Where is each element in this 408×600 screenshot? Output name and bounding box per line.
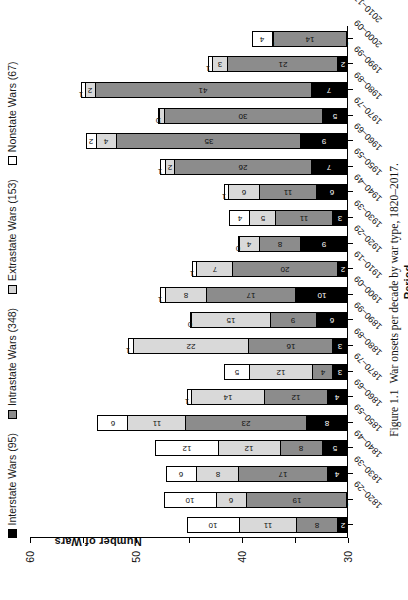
bar-stack[interactable]: 9840 bbox=[239, 236, 348, 252]
bar-segment-interstate[interactable]: 3 bbox=[332, 338, 348, 354]
bar-stack[interactable]: 69150 bbox=[191, 312, 348, 328]
bar-segment-nonstate[interactable]: 2 bbox=[86, 133, 97, 149]
bar-stack[interactable]: 72621 bbox=[161, 159, 348, 175]
bar-stack[interactable]: 823116 bbox=[98, 415, 348, 431]
bar-segment-interstate[interactable]: 2 bbox=[337, 261, 348, 277]
bar-segment-intrastate[interactable]: 20 bbox=[232, 261, 338, 277]
bar-segment-extrastate[interactable]: 3 bbox=[212, 56, 228, 72]
x-tick bbox=[348, 166, 353, 167]
bar-segment-intrastate[interactable]: 17 bbox=[238, 466, 328, 482]
bar-segment-intrastate[interactable]: 12 bbox=[264, 389, 328, 405]
bar-segment-nonstate[interactable]: 10 bbox=[164, 492, 217, 508]
bar-stack[interactable]: 412141 bbox=[188, 389, 348, 405]
bar-stack[interactable]: 31154 bbox=[230, 210, 348, 226]
bar-segment-extrastate[interactable]: 6 bbox=[216, 492, 248, 508]
bar-stack[interactable]: 22131 bbox=[209, 56, 348, 72]
bar-segment-nonstate[interactable]: 1 bbox=[160, 159, 165, 175]
bar-segment-extrastate[interactable]: 6 bbox=[228, 184, 260, 200]
bar-segment-nonstate[interactable]: 6 bbox=[97, 415, 129, 431]
bar-segment-intrastate[interactable]: 8 bbox=[259, 236, 301, 252]
bar-segment-interstate[interactable]: 3 bbox=[332, 210, 348, 226]
bar-segment-intrastate[interactable]: 16 bbox=[248, 338, 333, 354]
bar-segment-interstate[interactable]: 6 bbox=[316, 312, 348, 328]
bar-segment-extrastate[interactable]: 11 bbox=[239, 517, 297, 533]
bar-segment-nonstate[interactable]: 0 bbox=[158, 108, 160, 124]
bar-segment-interstate[interactable]: 5 bbox=[322, 440, 349, 456]
bar-segment-nonstate[interactable]: 4 bbox=[229, 210, 250, 226]
bar-stack[interactable]: 61161 bbox=[225, 184, 348, 200]
bar-segment-interstate[interactable]: 7 bbox=[311, 82, 348, 98]
bar-segment-intrastate[interactable]: 11 bbox=[259, 184, 317, 200]
bar-segment-intrastate[interactable]: 8 bbox=[280, 440, 322, 456]
bar-segment-nonstate[interactable]: 0 bbox=[190, 312, 192, 328]
bar-segment-extrastate[interactable]: 15 bbox=[191, 312, 271, 328]
bar-segment-extrastate[interactable]: 2 bbox=[85, 82, 96, 98]
bar-segment-intrastate[interactable]: 4 bbox=[312, 364, 333, 380]
bar-segment-interstate[interactable]: 7 bbox=[311, 159, 348, 175]
bar-segment-interstate[interactable]: 9 bbox=[300, 133, 348, 149]
bar-segment-extrastate[interactable]: 8 bbox=[196, 466, 238, 482]
bar-segment-interstate[interactable]: 6 bbox=[316, 184, 348, 200]
bar-segment-nonstate[interactable]: 0 bbox=[238, 236, 240, 252]
bar-segment-extrastate[interactable]: 7 bbox=[196, 261, 233, 277]
bar-segment-intrastate[interactable]: 35 bbox=[116, 133, 302, 149]
bar-segment-nonstate[interactable]: 5 bbox=[224, 364, 251, 380]
bar-segment-interstate[interactable]: 5 bbox=[322, 108, 349, 124]
bar-segment-intrastate[interactable]: 23 bbox=[185, 415, 307, 431]
bar-segment-intrastate[interactable]: 9 bbox=[270, 312, 318, 328]
bar-segment-nonstate[interactable]: 1 bbox=[208, 56, 213, 72]
bar-segment-intrastate[interactable]: 8 bbox=[296, 517, 338, 533]
bar-segment-interstate[interactable]: 3 bbox=[332, 364, 348, 380]
bar-segment-intrastate[interactable]: 41 bbox=[95, 82, 312, 98]
bar-segment-nonstate[interactable]: 12 bbox=[155, 440, 219, 456]
bar-segment-intrastate[interactable]: 11 bbox=[275, 210, 333, 226]
bar-stack[interactable]: 01404 bbox=[253, 31, 348, 47]
bar-stack[interactable]: 22071 bbox=[193, 261, 348, 277]
bar-segment-interstate[interactable]: 4 bbox=[327, 389, 348, 405]
bar-segment-nonstate[interactable]: 1 bbox=[192, 261, 197, 277]
bar-stack[interactable]: 581212 bbox=[156, 440, 348, 456]
bar-segment-extrastate[interactable]: 4 bbox=[96, 133, 117, 149]
bar-stack[interactable]: 101781 bbox=[161, 287, 348, 303]
bar-segment-intrastate[interactable]: 17 bbox=[206, 287, 296, 303]
bar-segment-interstate[interactable]: 10 bbox=[295, 287, 348, 303]
bar-segment-extrastate[interactable]: 12 bbox=[249, 364, 313, 380]
bar-segment-interstate[interactable]: 8 bbox=[306, 415, 348, 431]
bar-segment-nonstate[interactable]: 1 bbox=[224, 184, 229, 200]
bar-segment-nonstate[interactable]: 1 bbox=[81, 82, 86, 98]
bar-stack[interactable]: 316221 bbox=[129, 338, 348, 354]
bar-segment-intrastate[interactable]: 26 bbox=[174, 159, 312, 175]
bar-value-label: 19 bbox=[292, 496, 301, 504]
bar-segment-intrastate[interactable]: 30 bbox=[164, 108, 323, 124]
bar-stack[interactable]: 53010 bbox=[159, 108, 348, 124]
bar-segment-extrastate[interactable]: 4 bbox=[239, 236, 260, 252]
bar-segment-extrastate[interactable]: 2 bbox=[165, 159, 176, 175]
bar-stack[interactable]: 34125 bbox=[225, 364, 348, 380]
bar-stack[interactable]: 281110 bbox=[188, 517, 348, 533]
bar-stack[interactable]: 93542 bbox=[87, 133, 348, 149]
bar-segment-interstate[interactable]: 2 bbox=[337, 517, 348, 533]
bar-segment-nonstate[interactable]: 4 bbox=[252, 31, 273, 47]
bar-segment-intrastate[interactable]: 14 bbox=[273, 31, 347, 47]
bar-segment-nonstate[interactable]: 1 bbox=[187, 389, 192, 405]
bar-segment-extrastate[interactable]: 22 bbox=[133, 338, 250, 354]
bar-segment-extrastate[interactable]: 12 bbox=[218, 440, 282, 456]
bar-value-label: 1 bbox=[222, 192, 226, 200]
x-tick bbox=[348, 191, 353, 192]
bar-segment-interstate[interactable]: 9 bbox=[300, 236, 348, 252]
bar-segment-extrastate[interactable]: 5 bbox=[249, 210, 276, 226]
bar-stack[interactable]: 74121 bbox=[82, 82, 348, 98]
bar-stack[interactable]: 019610 bbox=[165, 492, 348, 508]
bar-segment-interstate[interactable]: 2 bbox=[337, 56, 348, 72]
bar-segment-nonstate[interactable]: 6 bbox=[166, 466, 198, 482]
bar-segment-extrastate[interactable]: 8 bbox=[165, 287, 207, 303]
bar-segment-nonstate[interactable]: 10 bbox=[187, 517, 240, 533]
bar-segment-intrastate[interactable]: 19 bbox=[246, 492, 347, 508]
bar-segment-nonstate[interactable]: 1 bbox=[128, 338, 133, 354]
bar-segment-nonstate[interactable]: 1 bbox=[160, 287, 165, 303]
bar-segment-extrastate[interactable]: 14 bbox=[191, 389, 265, 405]
bar-stack[interactable]: 41786 bbox=[167, 466, 348, 482]
bar-segment-extrastate[interactable]: 11 bbox=[127, 415, 185, 431]
bar-segment-interstate[interactable]: 4 bbox=[327, 466, 348, 482]
bar-segment-intrastate[interactable]: 21 bbox=[227, 56, 338, 72]
